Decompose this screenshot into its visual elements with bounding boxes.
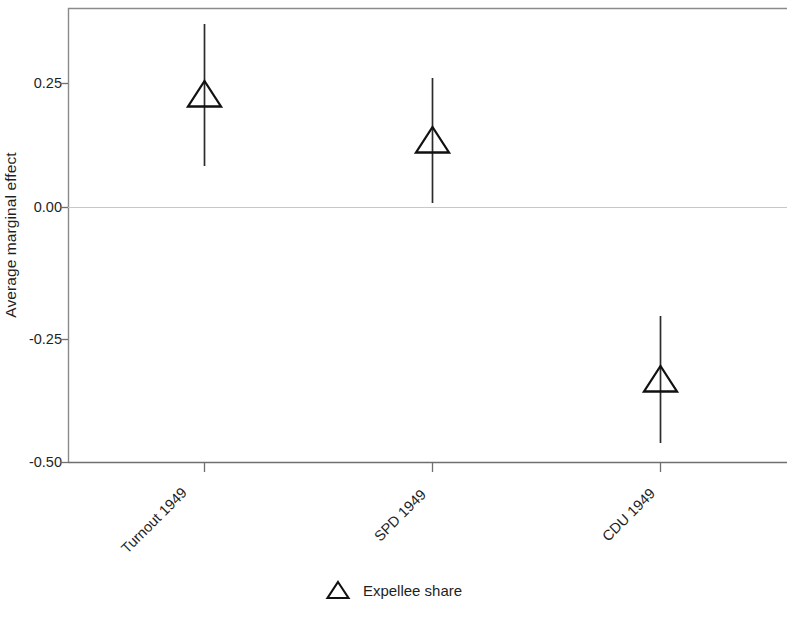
data-point-cdu-1949 (644, 316, 677, 443)
chart-figure: Average marginal effect 0.25 0.00 -0.25 … (0, 0, 787, 618)
legend-marker-0 (325, 578, 351, 602)
chart-legend: Expellee share (0, 578, 787, 602)
data-point-spd-1949 (416, 78, 449, 203)
triangle-up-open-marker-legend (327, 582, 348, 598)
series-expellee-share (188, 24, 677, 443)
data-point-turnout-1949 (188, 24, 221, 166)
legend-label-0: Expellee share (363, 582, 462, 599)
